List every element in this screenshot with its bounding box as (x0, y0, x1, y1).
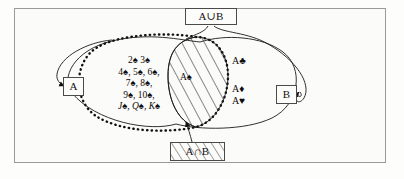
label-box-union: A∪B (185, 8, 237, 25)
label-box-set-b: B (276, 85, 297, 104)
set-b-element-ace-clubs: A♣ (232, 55, 246, 66)
label-set-b-text: B (283, 89, 291, 100)
label-intersection-text: A∩B (186, 146, 210, 157)
card-row: J♠, Q♠, K♠ (93, 101, 185, 113)
set-b-element-ace-diamonds: A♦ (232, 83, 244, 94)
card-row: 9♠, 10♠, (93, 90, 185, 102)
intersection-element-ace-spades: A♠ (180, 72, 192, 82)
venn-diagram-figure: A∪B A B A∩B 2♠ 3♠ 4♠, 5♠, 6♠, 7♠, 8♠, 9♠… (0, 0, 404, 179)
label-set-a-text: A (69, 81, 77, 92)
card-row: 4♠, 5♠, 6♠, (93, 67, 185, 79)
card-row: 7♠, 8♠, (93, 78, 185, 90)
card-row: 2♠ 3♠ (93, 55, 185, 67)
label-box-set-a: A (63, 77, 84, 96)
label-union-text: A∪B (198, 11, 223, 22)
label-box-intersection: A∩B (170, 142, 225, 161)
set-b-element-ace-hearts: A♥ (232, 95, 245, 106)
set-a-card-list: 2♠ 3♠ 4♠, 5♠, 6♠, 7♠, 8♠, 9♠, 10♠, J♠, Q… (93, 55, 185, 113)
